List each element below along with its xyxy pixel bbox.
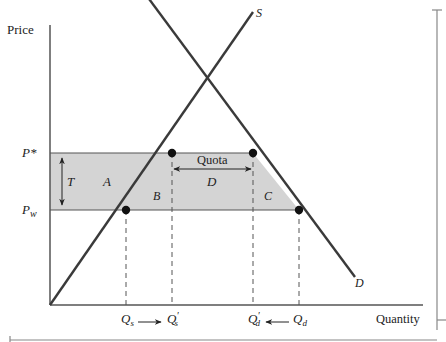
qd-label: Qd (293, 311, 307, 328)
p-world-base: P (21, 202, 30, 217)
point-qs-prime-pstar (168, 149, 176, 157)
qd-prime-sub: d (256, 318, 261, 328)
p-star-label: P* (21, 145, 37, 160)
p-world-sub: w (30, 208, 37, 219)
qd-prime-label: Q′d (248, 310, 261, 328)
region-c-label: C (264, 189, 273, 203)
qs-prime-label: Q′s (167, 310, 179, 328)
qs-prime-sub: s (175, 318, 179, 328)
qd-sub: d (302, 318, 307, 328)
point-qs-pw (122, 206, 130, 214)
quota-label: Quota (197, 153, 228, 167)
demand-label: D (354, 276, 364, 290)
y-axis-label: Price (7, 22, 34, 37)
region-b-label: B (153, 189, 161, 203)
point-qd-prime-pstar (249, 149, 257, 157)
qs-label: Qs (121, 311, 134, 328)
shaded-welfare-region (50, 153, 299, 210)
x-axis-label: Quantity (376, 312, 420, 326)
supply-label: S (256, 6, 262, 20)
region-a-label: A (102, 174, 111, 189)
tariff-label: T (67, 174, 75, 189)
qs-sub: s (130, 318, 134, 328)
demand-curve (135, 0, 355, 277)
p-world-label: Pw (21, 202, 37, 219)
point-qd-pw (295, 206, 303, 214)
region-d-label: D (206, 174, 217, 189)
quota-diagram: Price Quantity P* Pw S D T A B D C Quota… (0, 0, 446, 342)
